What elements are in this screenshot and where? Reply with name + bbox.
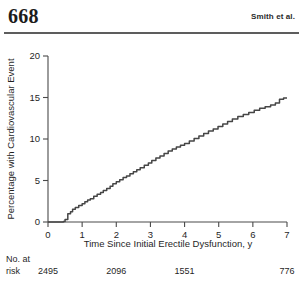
- y-tick-label: 20: [29, 50, 40, 61]
- cumulative-incidence-curve: [48, 98, 287, 222]
- risk-table-counts: 249520961551776: [38, 266, 295, 276]
- running-title: Smith et al.: [251, 12, 295, 21]
- x-axis-title: Time Since Initial Erectile Dysfunction,…: [84, 238, 253, 249]
- x-tick-label: 0: [45, 229, 50, 240]
- risk-table-label-line2: risk: [6, 266, 20, 276]
- risk-table-label-line1: No. at: [6, 254, 31, 264]
- y-tick-label: 5: [35, 175, 40, 186]
- running-head: 668 Smith et al.: [0, 0, 303, 34]
- y-tick-label: 10: [29, 133, 40, 144]
- y-tick-label: 15: [29, 92, 40, 103]
- page-number: 668: [8, 5, 39, 28]
- risk-count: 776: [279, 266, 294, 276]
- y-axis-ticks: 05101520: [29, 50, 48, 227]
- y-tick-label: 0: [35, 216, 40, 227]
- survival-chart: 05101520 01234567 Percentage with Cardio…: [0, 34, 303, 290]
- risk-count: 2096: [106, 266, 126, 276]
- risk-count: 1551: [175, 266, 195, 276]
- risk-count: 2495: [38, 266, 58, 276]
- chart-canvas: 05101520 01234567 Percentage with Cardio…: [0, 34, 303, 290]
- y-axis-title: Percentage with Cardiovascular Event: [5, 58, 16, 219]
- x-tick-label: 7: [284, 229, 289, 240]
